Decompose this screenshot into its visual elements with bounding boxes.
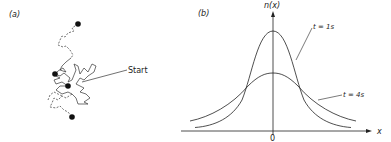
t4-label: t = 4s bbox=[343, 91, 365, 99]
t1-label: t = 1s bbox=[313, 23, 335, 31]
t1-leader-line bbox=[296, 28, 312, 60]
dot bbox=[69, 114, 75, 120]
random-walk-path bbox=[48, 24, 96, 117]
x-axis-arrow-icon bbox=[366, 129, 372, 133]
walk-dots bbox=[52, 21, 81, 120]
dot bbox=[52, 71, 58, 77]
origin-label: 0 bbox=[270, 134, 275, 142]
start-label: Start bbox=[128, 66, 148, 75]
t4-leader-line bbox=[318, 95, 342, 100]
x-axis-label: x bbox=[376, 127, 382, 136]
start-leader-line bbox=[82, 70, 127, 82]
y-axis-label: n(x) bbox=[264, 1, 280, 10]
panel-b-label: (b) bbox=[198, 9, 209, 18]
dot-start bbox=[65, 83, 71, 89]
y-axis-arrow-icon bbox=[271, 11, 275, 17]
dot-end bbox=[75, 21, 81, 27]
figure: (a) Start (b) x n(x) 0 t = 1s t = 4s bbox=[0, 0, 391, 142]
panel-a-label: (a) bbox=[9, 10, 20, 19]
